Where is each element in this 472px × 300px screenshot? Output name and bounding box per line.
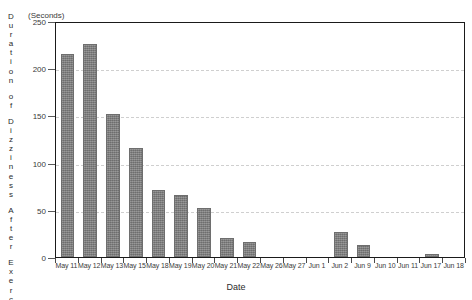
x-tick-label: Jun 17 bbox=[419, 262, 442, 269]
y-axis-title-char: z bbox=[2, 144, 20, 153]
bar bbox=[61, 54, 75, 257]
x-tick-label: Jun 18 bbox=[442, 262, 465, 269]
chart-figure: Duration of Dizziness After Exercise (Se… bbox=[0, 0, 472, 300]
x-axis-title: Date bbox=[0, 282, 472, 292]
y-axis-title-char: f bbox=[2, 215, 20, 224]
x-tick-label: Jun 9 bbox=[351, 262, 374, 269]
x-tick-label: May 13 bbox=[101, 262, 124, 269]
y-axis-title-char: x bbox=[2, 267, 20, 276]
x-tick-label: May 22 bbox=[237, 262, 260, 269]
bar bbox=[357, 245, 371, 257]
y-axis-title-char bbox=[2, 85, 20, 92]
y-axis-title-char: n bbox=[2, 76, 20, 85]
bar bbox=[425, 254, 439, 257]
x-tick-label: May 18 bbox=[146, 262, 169, 269]
x-tick-label: May 21 bbox=[214, 262, 237, 269]
plot-area bbox=[55, 22, 465, 258]
y-tick-mark bbox=[48, 22, 55, 23]
y-tick-mark bbox=[48, 69, 55, 70]
y-tick-label: 250 bbox=[18, 18, 46, 27]
x-tick-label: May 26 bbox=[260, 262, 283, 269]
bar bbox=[106, 114, 120, 257]
x-tick-mark bbox=[465, 258, 466, 263]
y-axis-title: Duration of Dizziness After Exercise bbox=[2, 12, 20, 270]
bar bbox=[83, 44, 97, 257]
y-axis-title-char: i bbox=[2, 126, 20, 135]
y-tick-mark bbox=[48, 258, 55, 259]
y-axis-title-char: s bbox=[2, 190, 20, 199]
bar bbox=[129, 148, 143, 257]
y-tick-label: 200 bbox=[18, 65, 46, 74]
x-tick-label: Jun 11 bbox=[397, 262, 420, 269]
x-tick-label: May 27 bbox=[283, 262, 306, 269]
y-axis-title-char: t bbox=[2, 224, 20, 233]
bar bbox=[197, 208, 211, 257]
y-axis-title-char: t bbox=[2, 48, 20, 57]
y-axis-title-char: z bbox=[2, 135, 20, 144]
x-tick-label: Jun 2 bbox=[328, 262, 351, 269]
y-tick-label: 50 bbox=[18, 207, 46, 216]
y-tick-label: 100 bbox=[18, 160, 46, 169]
y-axis-title-char bbox=[2, 199, 20, 206]
bar bbox=[220, 238, 234, 257]
y-tick-mark bbox=[48, 211, 55, 212]
x-tick-label: May 20 bbox=[192, 262, 215, 269]
x-tick-label: May 11 bbox=[55, 262, 78, 269]
y-tick-mark bbox=[48, 116, 55, 117]
y-axis-title-char: s bbox=[2, 181, 20, 190]
y-axis-title-char: e bbox=[2, 172, 20, 181]
chart-title-cropped bbox=[0, 0, 472, 5]
plot-inner bbox=[56, 23, 464, 257]
y-axis-title-char: f bbox=[2, 101, 20, 110]
bar bbox=[152, 190, 166, 257]
y-axis-title-char: r bbox=[2, 30, 20, 39]
bar bbox=[334, 232, 348, 257]
x-tick-label: May 15 bbox=[123, 262, 146, 269]
gridline bbox=[56, 70, 464, 71]
x-tick-label: May 12 bbox=[78, 262, 101, 269]
x-tick-label: Jun 1 bbox=[306, 262, 329, 269]
y-tick-mark bbox=[48, 164, 55, 165]
y-axis-title-char: c bbox=[2, 295, 20, 300]
bar bbox=[174, 195, 188, 257]
y-tick-label: 150 bbox=[18, 112, 46, 121]
y-axis-title-char: a bbox=[2, 39, 20, 48]
x-tick-label: May 19 bbox=[169, 262, 192, 269]
bar bbox=[243, 242, 257, 257]
x-tick-label: Jun 10 bbox=[374, 262, 397, 269]
y-axis-title-char: o bbox=[2, 92, 20, 101]
y-axis-title-char: e bbox=[2, 233, 20, 242]
y-tick-label: 0 bbox=[18, 254, 46, 263]
y-axis-title-char: r bbox=[2, 242, 20, 251]
